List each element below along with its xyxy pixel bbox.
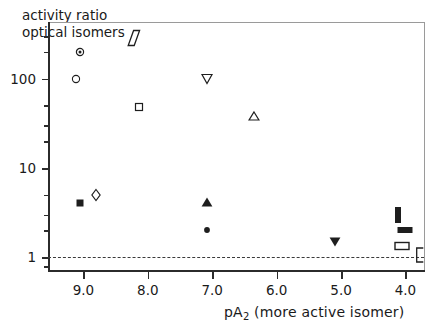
- x-tick: [83, 272, 85, 279]
- axis-spine-top: [48, 22, 425, 23]
- figure-canvas: activity ratio optical isomers activity …: [0, 0, 442, 331]
- data-point-circle-open: [71, 74, 80, 83]
- data-point-square-open: [135, 103, 144, 112]
- data-point-parallelogram-open: [127, 29, 141, 46]
- y-tick-major: [42, 168, 49, 170]
- y-tick-minor: [44, 195, 49, 197]
- y-tick-minor: [44, 105, 49, 107]
- y-tick-label: 10: [0, 160, 36, 176]
- data-point-bracket-open: [415, 247, 424, 263]
- data-point-triangle-up-open: [249, 111, 260, 121]
- x-tick-label: 6.0: [266, 282, 287, 298]
- plot-area: [48, 22, 425, 272]
- data-point-bar-vertical-filled: [394, 206, 402, 223]
- x-tick-label: 8.0: [137, 282, 158, 298]
- x-tick-label: 4.0: [395, 282, 416, 298]
- x-axis-title-main: pA: [224, 304, 243, 320]
- x-tick: [405, 272, 407, 279]
- x-tick: [277, 272, 279, 279]
- x-axis-title: pA2 (more active isomer): [224, 305, 405, 322]
- x-tick-label: 9.0: [73, 282, 94, 298]
- y-tick-label: 100: [0, 71, 36, 87]
- x-tick: [341, 272, 343, 279]
- data-point-diamond-open: [91, 188, 102, 201]
- y-tick-minor: [44, 230, 49, 232]
- data-point-circle-dot: [76, 47, 85, 56]
- x-tick: [212, 272, 214, 279]
- reference-line-y1: [48, 257, 424, 258]
- y-tick-minor: [44, 266, 49, 268]
- y-tick-minor: [44, 141, 49, 143]
- data-point-circle-filled: [204, 227, 211, 234]
- data-point-triangle-down-filled: [329, 236, 341, 247]
- data-point-square-filled: [76, 199, 85, 208]
- data-point-triangle-down-open: [201, 73, 213, 84]
- axis-spine-bottom: [48, 270, 425, 272]
- x-tick-label: 7.0: [201, 282, 222, 298]
- axis-spine-right: [424, 22, 425, 272]
- data-point-triangle-up-filled: [201, 196, 213, 207]
- y-tick-minor: [44, 52, 49, 54]
- chart-title-line-1-visible: activity ratio: [22, 9, 107, 23]
- data-point-rect-open: [394, 241, 410, 250]
- axis-spine-left: [48, 22, 50, 272]
- x-tick: [148, 272, 150, 279]
- x-tick-label: 5.0: [330, 282, 351, 298]
- y-tick-minor: [44, 36, 49, 38]
- y-tick-major: [42, 79, 49, 81]
- data-point-bar-horizontal-filled: [397, 226, 413, 234]
- x-axis-title-tail: (more active isomer): [249, 304, 404, 320]
- y-tick-label: 1: [0, 249, 36, 265]
- y-tick-minor: [44, 215, 49, 217]
- y-tick-minor: [44, 125, 49, 127]
